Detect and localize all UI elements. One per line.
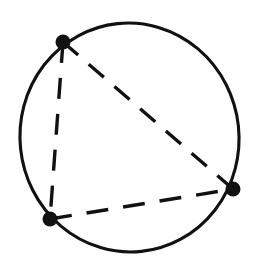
circumscribed-circle [9,12,251,262]
vertex-right-dot [226,182,241,197]
chord-bottom [50,189,233,219]
inscribed-triangle-figure [0,0,257,262]
vertex-top-left-dot [56,35,71,50]
diagram-canvas [0,0,257,262]
vertex-bottom-left-dot [43,212,58,227]
chord-left [50,42,63,219]
chord-diagonal [63,42,233,189]
